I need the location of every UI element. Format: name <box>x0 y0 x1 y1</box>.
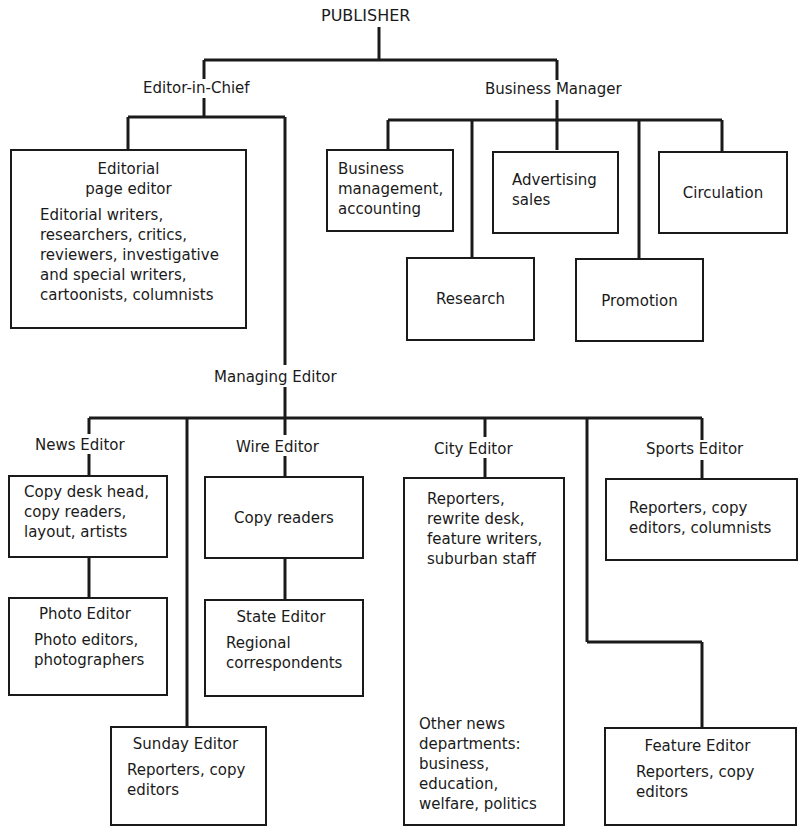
sports-editor-label: Sports Editor <box>644 440 745 458</box>
city-editor-box: Reporters, rewrite desk, feature writers… <box>403 477 565 826</box>
sunday-editor-box: Sunday Editor Reporters, copy editors <box>110 726 267 826</box>
business-manager-label: Business Manager <box>483 80 624 98</box>
research-box: Research <box>406 257 535 341</box>
photo-editor-title: Photo Editor <box>10 604 160 624</box>
feature-editor-title: Feature Editor <box>606 736 789 756</box>
wire-editor-label: Wire Editor <box>234 438 321 456</box>
city-editor-staff: Reporters, rewrite desk, feature writers… <box>427 489 557 569</box>
circulation-box: Circulation <box>658 151 788 234</box>
state-editor-staff: Regional correspondents <box>206 633 356 673</box>
wire-desk-box: Copy readers <box>204 476 364 559</box>
news-desk-box: Copy desk head, copy readers, layout, ar… <box>8 475 168 558</box>
sunday-editor-title: Sunday Editor <box>112 734 259 754</box>
sports-editor-box: Reporters, copy editors, columnists <box>605 478 798 561</box>
editorial-page-editor-title: Editorial page editor <box>22 159 235 199</box>
editorial-page-editor-box: Editorial page editor Editorial writers,… <box>10 149 247 329</box>
managing-editor-label: Managing Editor <box>212 368 339 386</box>
editorial-page-staff: Editorial writers, researchers, critics,… <box>40 205 235 305</box>
feature-editor-staff: Reporters, copy editors <box>606 762 789 802</box>
other-news-departments: Other news departments: business, educat… <box>419 714 537 814</box>
state-editor-box: State Editor Regional correspondents <box>204 599 364 697</box>
photo-editor-box: Photo Editor Photo editors, photographer… <box>8 597 168 696</box>
feature-editor-box: Feature Editor Reporters, copy editors <box>604 727 797 826</box>
sunday-editor-staff: Reporters, copy editors <box>112 760 259 800</box>
publisher-label: PUBLISHER <box>319 7 412 25</box>
editor-in-chief-label: Editor-in-Chief <box>141 79 252 97</box>
news-editor-label: News Editor <box>33 436 127 454</box>
business-management-box: Business management, accounting <box>326 149 454 232</box>
city-editor-label: City Editor <box>432 440 515 458</box>
promotion-box: Promotion <box>575 258 704 342</box>
state-editor-title: State Editor <box>206 607 356 627</box>
advertising-sales-box: Advertising sales <box>492 151 619 234</box>
photo-editor-staff: Photo editors, photographers <box>10 630 160 670</box>
